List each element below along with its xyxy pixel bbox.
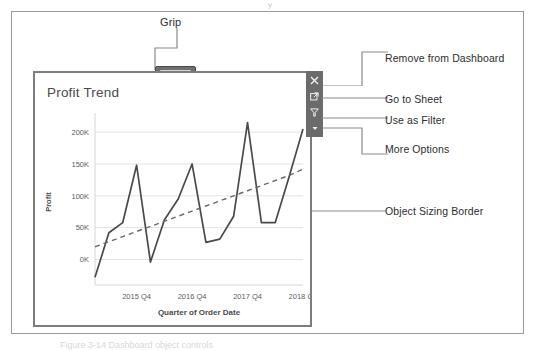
object-toolbar[interactable] — [306, 71, 323, 137]
x-axis-title: Quarter of Order Date — [158, 308, 241, 317]
svg-text:2018 Q4: 2018 Q4 — [289, 292, 310, 301]
caret-down-icon — [311, 125, 319, 131]
worksheet-object-sizing-border[interactable]: Profit Trend 0K50K100K150K200K 2015 Q420… — [33, 71, 312, 327]
callout-use-as-filter: Use as Filter — [385, 114, 445, 126]
svg-text:2016 Q4: 2016 Q4 — [178, 292, 207, 301]
figure-caption-remnant: Figure 3-14 Dashboard object controls — [60, 340, 213, 350]
remove-from-dashboard-button[interactable] — [306, 72, 323, 88]
callout-remove-from-dashboard: Remove from Dashboard — [385, 52, 504, 64]
callout-go-to-sheet: Go to Sheet — [385, 93, 442, 105]
svg-text:0K: 0K — [80, 255, 89, 264]
svg-text:200K: 200K — [71, 128, 89, 137]
callout-object-sizing-border: Object Sizing Border — [385, 205, 483, 217]
funnel-icon — [310, 108, 319, 117]
y-axis-title: Profit — [44, 192, 53, 212]
chart-series-layer — [95, 123, 303, 278]
chart-canvas: 0K50K100K150K200K 2015 Q42016 Q42017 Q42… — [35, 107, 310, 325]
go-to-sheet-button[interactable] — [306, 88, 323, 104]
callout-more-options: More Options — [385, 143, 449, 155]
svg-text:150K: 150K — [71, 160, 89, 169]
use-as-filter-button[interactable] — [306, 104, 323, 120]
svg-text:100K: 100K — [71, 192, 89, 201]
more-options-button[interactable] — [306, 120, 323, 136]
page-title: Profit Trend — [47, 85, 119, 100]
grip-label: Grip — [160, 16, 181, 28]
external-link-icon — [310, 92, 319, 101]
svg-text:2017 Q4: 2017 Q4 — [233, 292, 262, 301]
y-axis-tick-labels: 0K50K100K150K200K — [71, 128, 89, 264]
chart-gridlines — [95, 132, 303, 259]
scan-artifact: y — [268, 0, 272, 9]
svg-text:50K: 50K — [76, 223, 89, 232]
x-axis-tick-labels: 2015 Q42016 Q42017 Q42018 Q4 — [122, 292, 310, 301]
line-chart: 0K50K100K150K200K 2015 Q42016 Q42017 Q42… — [35, 107, 310, 325]
chart-series-profit — [95, 123, 303, 278]
svg-text:2015 Q4: 2015 Q4 — [122, 292, 151, 301]
close-icon — [310, 76, 319, 85]
